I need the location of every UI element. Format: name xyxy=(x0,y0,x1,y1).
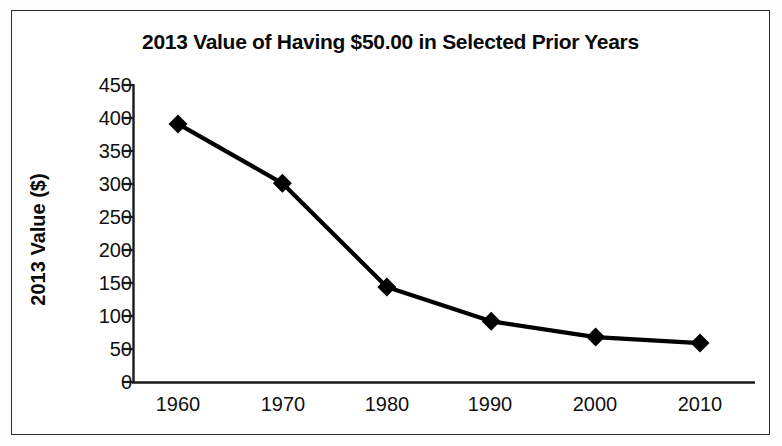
data-point-marker xyxy=(169,114,188,133)
data-point-marker xyxy=(691,334,710,353)
data-point-marker xyxy=(586,328,605,347)
y-tick-marks xyxy=(123,85,133,382)
chart-figure: 2013 Value of Having $50.00 in Selected … xyxy=(0,0,782,446)
plot-area xyxy=(0,0,782,446)
data-point-marker xyxy=(482,312,501,331)
data-markers xyxy=(169,114,710,352)
data-line xyxy=(178,124,700,343)
